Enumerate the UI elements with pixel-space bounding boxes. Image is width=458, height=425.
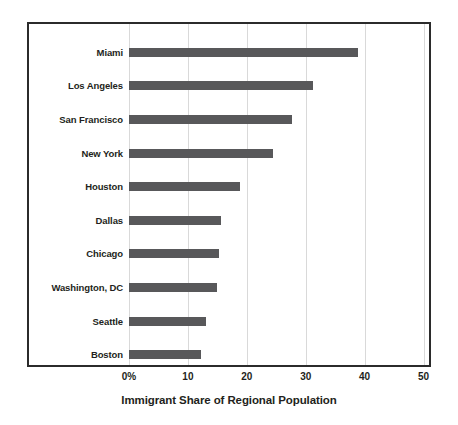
chart-figure: MiamiLos AngelesSan FranciscoNew YorkHou… xyxy=(0,0,458,425)
bar xyxy=(129,350,201,359)
bar-row: Los Angeles xyxy=(29,69,429,104)
bar xyxy=(129,115,292,124)
x-tick-label: 40 xyxy=(359,371,370,382)
bar-row: Dallas xyxy=(29,203,429,238)
bar-row: Washington, DC xyxy=(29,270,429,305)
bar-row: Houston xyxy=(29,169,429,204)
bar xyxy=(129,81,313,90)
bar xyxy=(129,283,217,292)
x-tick-label: 50 xyxy=(418,371,429,382)
bar-row: Seattle xyxy=(29,304,429,339)
x-tick-label: 20 xyxy=(241,371,252,382)
bars-and-categories: MiamiLos AngelesSan FranciscoNew YorkHou… xyxy=(29,24,429,365)
x-tick-label: 0% xyxy=(122,371,136,382)
bar xyxy=(129,182,240,191)
bar xyxy=(129,249,219,258)
category-label: Los Angeles xyxy=(23,80,123,91)
bar xyxy=(129,317,206,326)
bar-row: Miami xyxy=(29,35,429,70)
bar-row: San Francisco xyxy=(29,102,429,137)
x-axis-tick-labels: 0%1020304050 xyxy=(27,371,431,389)
category-label: Boston xyxy=(23,349,123,360)
category-label: Washington, DC xyxy=(23,282,123,293)
bar-row: New York xyxy=(29,136,429,171)
bar-row: Chicago xyxy=(29,237,429,272)
category-label: Seattle xyxy=(23,316,123,327)
x-tick-label: 30 xyxy=(300,371,311,382)
x-axis-title: Immigrant Share of Regional Population xyxy=(0,394,458,406)
category-label: Miami xyxy=(23,47,123,58)
category-label: Houston xyxy=(23,181,123,192)
category-label: New York xyxy=(23,148,123,159)
plot-area: MiamiLos AngelesSan FranciscoNew YorkHou… xyxy=(27,22,431,367)
x-tick-label: 10 xyxy=(182,371,193,382)
bar xyxy=(129,216,221,225)
bar-row: Boston xyxy=(29,337,429,372)
bar xyxy=(129,48,358,57)
category-label: San Francisco xyxy=(23,114,123,125)
category-label: Chicago xyxy=(23,248,123,259)
category-label: Dallas xyxy=(23,215,123,226)
bar xyxy=(129,149,273,158)
